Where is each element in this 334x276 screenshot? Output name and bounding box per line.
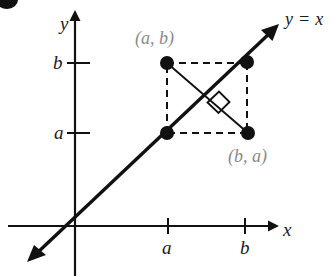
x-axis-arrowhead — [268, 221, 279, 232]
point-label-b-a: (b, a) — [228, 147, 267, 165]
x-tick-label-b: b — [240, 238, 250, 257]
x-axis — [8, 218, 279, 234]
right-angle-marker-icon — [208, 92, 230, 114]
line-equation-label: y = x — [285, 10, 324, 28]
x-tick-label-a: a — [162, 238, 172, 257]
point-dot-a-a — [160, 126, 174, 140]
line-y-equals-x-segment — [36, 32, 271, 254]
y-tick-label-a: a — [54, 123, 64, 142]
y-axis-arrowhead — [70, 10, 81, 21]
y-tick-label-b: b — [53, 53, 63, 72]
y-axis — [67, 10, 90, 276]
point-dot-b-a — [241, 126, 255, 140]
point-dot-a-b — [160, 56, 174, 70]
point-label-a-b: (a, b) — [135, 29, 174, 47]
point-dot-b-b — [240, 55, 254, 69]
y-axis-label: y — [60, 14, 68, 33]
figure-canvas: y x b a a b y = x (a, b) (b, a) — [0, 0, 334, 276]
segment-ab-to-ba — [167, 63, 248, 133]
x-axis-label: x — [283, 220, 291, 239]
